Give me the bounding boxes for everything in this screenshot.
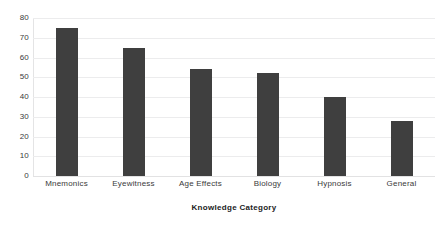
bar xyxy=(324,97,346,176)
y-axis-tick-label: 10 xyxy=(0,152,29,160)
bar xyxy=(123,48,145,176)
bar xyxy=(391,121,413,176)
x-axis-title: Knowledge Category xyxy=(33,203,435,212)
x-axis-tick-label: Mnemonics xyxy=(45,180,88,189)
bar xyxy=(190,69,212,176)
plot-area xyxy=(33,18,435,176)
x-axis-tick-label: General xyxy=(387,180,417,189)
y-axis-tick-labels: 01020304050607080 xyxy=(0,18,29,176)
x-axis-tick-label: Biology xyxy=(254,180,282,189)
bar xyxy=(56,28,78,176)
y-axis-tick-label: 70 xyxy=(0,34,29,42)
x-axis-tick-label: Eyewitness xyxy=(112,180,154,189)
bars-layer xyxy=(33,18,435,176)
y-axis-tick-label: 80 xyxy=(0,14,29,22)
y-axis-tick-label: 40 xyxy=(0,93,29,101)
y-axis-tick-label: 50 xyxy=(0,73,29,81)
gridline xyxy=(33,176,435,177)
x-axis-tick-label: Age Effects xyxy=(179,180,222,189)
y-axis-tick-label: 0 xyxy=(0,172,29,180)
y-axis-tick-label: 30 xyxy=(0,113,29,121)
x-axis-tick-label: Hypnosis xyxy=(317,180,352,189)
y-axis-tick-label: 60 xyxy=(0,54,29,62)
x-axis-tick-labels: MnemonicsEyewitnessAge EffectsBiologyHyp… xyxy=(33,180,435,194)
bar xyxy=(257,73,279,176)
bar-chart: 01020304050607080 MnemonicsEyewitnessAge… xyxy=(0,0,446,228)
y-axis-tick-label: 20 xyxy=(0,133,29,141)
